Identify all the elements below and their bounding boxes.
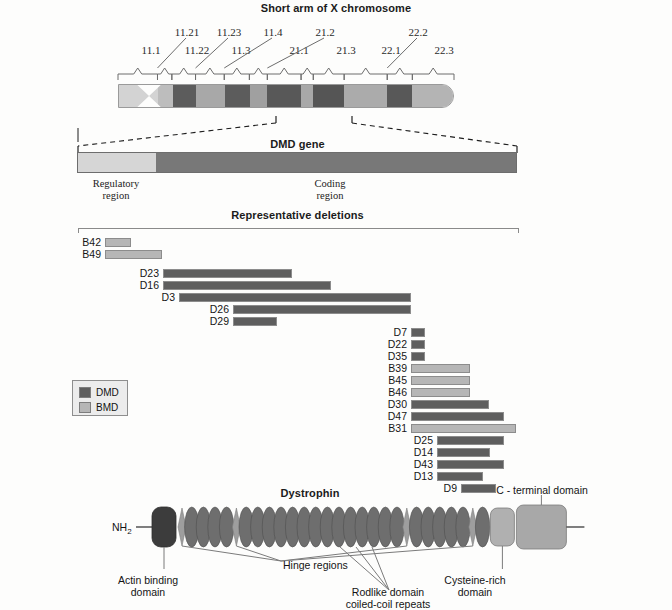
deletion-bar-D35	[411, 352, 425, 361]
actin-binding-domain-label-line1: Actin binding	[118, 574, 178, 586]
chromosome-band-22-2	[344, 85, 387, 107]
chromosome-band-11-4	[225, 85, 250, 107]
rodlike-domain-label-line1: Rodlike domain	[352, 586, 424, 598]
deletion-label-D43: D43	[397, 458, 433, 470]
chromosome-band-21-2	[267, 85, 301, 107]
deletion-bar-B46	[411, 388, 470, 397]
deletion-bar-B45	[411, 376, 470, 385]
deletion-label-D7: D7	[371, 326, 407, 338]
deletion-label-D35: D35	[371, 350, 407, 362]
deletion-label-D47: D47	[371, 410, 407, 422]
chromosome-band-21-1	[250, 85, 268, 107]
deletion-label-D16: D16	[123, 279, 159, 291]
deletion-label-D3: D3	[139, 291, 175, 303]
deletion-bar-D13	[437, 472, 483, 481]
deletion-bar-D43	[437, 460, 504, 469]
deletion-label-D14: D14	[397, 446, 433, 458]
legend-label-BMD: BMD	[96, 402, 118, 413]
chromosome-band-11-3	[196, 85, 225, 107]
chromosome-band-22-1	[313, 85, 344, 107]
deletion-bar-D3	[179, 293, 411, 302]
deletion-label-B45: B45	[371, 374, 407, 386]
rod-repeat-shape	[219, 507, 233, 547]
deletion-bar-D23	[163, 269, 292, 278]
deletion-bar-B31	[411, 424, 516, 433]
rodlike-domain-label-line2: coiled-coil repeats	[346, 598, 431, 610]
deletions-legend: DMDBMD	[72, 380, 128, 416]
deletion-label-D29: D29	[193, 315, 229, 327]
coding-region-label: Coding region	[290, 178, 370, 202]
legend-swatch-DMD	[79, 387, 91, 398]
deletion-label-D25: D25	[397, 434, 433, 446]
actin-binding-domain-label: Actin binding domain	[98, 574, 198, 598]
deletion-label-D26: D26	[193, 303, 229, 315]
deletion-bar-D16	[163, 281, 331, 290]
gene-regulatory-region	[78, 153, 156, 172]
deletion-bar-D25	[437, 436, 504, 445]
regulatory-region-label-line1: Regulatory	[93, 178, 140, 189]
chromosome-band-22-3b	[412, 85, 453, 107]
chromosome-band-22-3a	[387, 85, 412, 107]
deletion-bar-D7	[411, 328, 425, 337]
deletion-label-D22: D22	[371, 338, 407, 350]
deletion-label-B49: B49	[65, 248, 101, 260]
dmd-gene-bar	[77, 152, 517, 173]
actin-binding-domain-shape	[152, 507, 176, 547]
chromosome-ideogram	[118, 84, 454, 108]
deletion-label-D23: D23	[123, 267, 159, 279]
deletion-bar-D47	[411, 412, 504, 421]
deletion-label-D30: D30	[371, 398, 407, 410]
c-terminal-domain-label: C - terminal domain	[468, 484, 616, 496]
cysteine-rich-domain-label-line2: domain	[458, 586, 492, 598]
legend-swatch-BMD	[79, 402, 91, 413]
deletion-label-B39: B39	[371, 362, 407, 374]
chromosome-band-21-3	[301, 85, 313, 107]
regulatory-region-label-line2: region	[103, 190, 130, 201]
deletion-bar-D22	[411, 340, 425, 349]
regulatory-region-label: Regulatory region	[76, 178, 156, 202]
deletion-label-D13: D13	[397, 470, 433, 482]
deletion-bar-D30	[411, 400, 489, 409]
coding-region-label-line1: Coding	[315, 178, 346, 189]
deletions-title: Representative deletions	[0, 209, 595, 221]
hinge-regions-label: Hinge regions	[283, 559, 348, 571]
deletion-label-B46: B46	[371, 386, 407, 398]
deletion-bar-B42	[105, 238, 131, 247]
actin-binding-domain-label-line2: domain	[131, 586, 165, 598]
deletion-label-B42: B42	[65, 236, 101, 248]
chromosome-band-11-23	[173, 85, 197, 107]
cysteine-rich-domain-shape	[490, 508, 514, 546]
rod-repeat-shape	[456, 507, 470, 547]
cysteine-rich-domain-label: Cysteine-rich domain	[429, 574, 521, 598]
deletions-ruler-tick-right	[518, 228, 519, 233]
deletion-bar-D14	[437, 448, 490, 457]
deletions-ruler-tick-left	[78, 228, 79, 233]
rod-repeat-shape	[390, 507, 404, 547]
deletion-label-D9: D9	[421, 482, 457, 494]
rod-repeat-shape	[475, 507, 489, 547]
deletion-label-B31: B31	[371, 422, 407, 434]
deletion-bar-B39	[411, 364, 470, 373]
legend-label-DMD: DMD	[96, 387, 119, 398]
deletions-ruler	[78, 228, 518, 229]
deletion-bar-D26	[233, 305, 411, 314]
deletion-bar-D29	[233, 317, 277, 326]
chromosome-band-11-22	[158, 85, 172, 107]
gene-dashed-connectors	[0, 112, 672, 154]
cysteine-rich-domain-label-line1: Cysteine-rich	[444, 574, 505, 586]
coding-region-label-line2: region	[317, 190, 344, 201]
gene-coding-region	[156, 153, 516, 172]
c-terminal-domain-shape	[516, 505, 566, 549]
deletion-bar-B49	[105, 250, 162, 259]
